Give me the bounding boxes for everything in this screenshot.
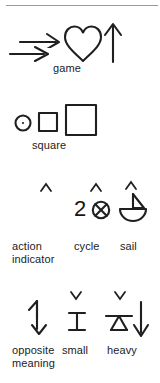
caption-small: small [62, 344, 88, 357]
i-beam-icon [65, 310, 89, 334]
small-square-icon [37, 111, 59, 133]
caption-square: square [32, 139, 66, 152]
top-divider [6, 5, 158, 6]
circle-with-dot-icon [13, 113, 33, 133]
symbol-sheet: game square 2 action indicator cycle sai… [0, 0, 160, 383]
caption-opposite-meaning: opposite meaning [12, 344, 55, 369]
caret-down-mark-small-icon [69, 290, 83, 301]
caption-action-indicator: action indicator [12, 240, 54, 265]
caret-down-mark-heavy-icon [113, 290, 127, 301]
heart-icon [62, 24, 104, 64]
caret-up-mark-cycle-icon [89, 182, 103, 193]
caption-cycle: cycle [74, 240, 100, 253]
balance-fulcrum-icon [104, 310, 134, 334]
up-down-zigzag-arrow-icon [26, 299, 50, 339]
up-arrow-icon [102, 22, 124, 64]
caption-sail: sail [120, 240, 137, 253]
down-arrow-icon [131, 300, 151, 338]
cycle-number: 2 [74, 198, 86, 220]
caret-up-mark-sail-icon [124, 180, 138, 191]
caption-heavy: heavy [107, 344, 137, 357]
sailboat-icon [117, 192, 149, 224]
right-arrow-lower-icon [8, 44, 54, 62]
circled-x-icon [90, 199, 112, 221]
caret-up-mark-action-icon [39, 182, 53, 193]
large-square-icon [64, 103, 98, 137]
caption-game: game [53, 62, 81, 75]
